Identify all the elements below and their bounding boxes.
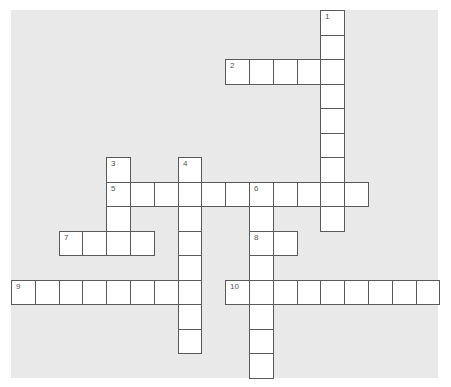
crossword-cell[interactable] — [106, 231, 131, 256]
crossword-cell[interactable] — [249, 304, 274, 330]
crossword-cell[interactable]: 2 — [225, 59, 250, 85]
crossword-cell[interactable] — [225, 182, 250, 207]
clue-number: 8 — [254, 234, 258, 242]
crossword-cell[interactable] — [273, 59, 298, 85]
crossword-cell[interactable] — [320, 133, 345, 158]
crossword-cell[interactable] — [82, 280, 107, 305]
crossword-cell[interactable] — [130, 231, 155, 256]
crossword-cell[interactable] — [320, 157, 345, 183]
crossword-cell[interactable] — [249, 59, 274, 85]
crossword-cell[interactable] — [320, 280, 345, 305]
crossword-cell[interactable]: 9 — [11, 280, 36, 305]
crossword-cell[interactable]: 5 — [106, 182, 131, 207]
crossword-cell[interactable] — [154, 182, 179, 207]
crossword-cell[interactable] — [249, 206, 274, 232]
crossword-cell[interactable] — [178, 255, 202, 281]
clue-number: 5 — [111, 185, 115, 193]
clue-number: 10 — [230, 283, 239, 291]
crossword-cell[interactable] — [106, 206, 131, 232]
crossword-cell[interactable] — [178, 206, 202, 232]
crossword-cell[interactable] — [344, 182, 369, 207]
crossword-cell[interactable] — [297, 182, 321, 207]
crossword-cell[interactable] — [249, 329, 274, 354]
clue-number: 4 — [183, 160, 187, 168]
crossword-cell[interactable] — [320, 206, 345, 232]
clue-number: 6 — [254, 185, 258, 193]
crossword-cell[interactable] — [249, 280, 274, 305]
crossword-cell[interactable] — [368, 280, 393, 305]
clue-number: 9 — [16, 283, 20, 291]
crossword-cell[interactable] — [320, 35, 345, 60]
clue-number: 2 — [230, 62, 234, 70]
crossword-cell[interactable] — [249, 353, 274, 379]
crossword-cell[interactable] — [35, 280, 60, 305]
crossword-cell[interactable] — [320, 108, 345, 134]
clue-number: 1 — [325, 13, 329, 21]
crossword-cell[interactable]: 4 — [178, 157, 202, 183]
crossword-cell[interactable]: 3 — [106, 157, 131, 183]
clue-number: 7 — [64, 234, 68, 242]
crossword-cell[interactable] — [178, 231, 202, 256]
crossword-cell[interactable] — [106, 280, 131, 305]
crossword-cell[interactable] — [154, 280, 179, 305]
crossword-cell[interactable]: 10 — [225, 280, 250, 305]
crossword-cell[interactable] — [273, 280, 298, 305]
crossword-cell[interactable] — [416, 280, 440, 305]
crossword-cell[interactable] — [344, 280, 369, 305]
crossword-cell[interactable] — [320, 182, 345, 207]
crossword-grid: 12354687910 — [0, 0, 451, 387]
crossword-cell[interactable] — [130, 280, 155, 305]
crossword-cell[interactable] — [59, 280, 83, 305]
crossword-cell[interactable] — [82, 231, 107, 256]
crossword-cell[interactable] — [249, 255, 274, 281]
clue-number: 3 — [111, 160, 115, 168]
crossword-cell[interactable] — [273, 231, 298, 256]
crossword-cell[interactable] — [392, 280, 417, 305]
crossword-cell[interactable] — [297, 280, 321, 305]
crossword-cell[interactable] — [273, 182, 298, 207]
crossword-cell[interactable] — [201, 182, 226, 207]
crossword-cell[interactable]: 1 — [320, 10, 345, 36]
crossword-cell[interactable] — [178, 182, 202, 207]
crossword-cell[interactable] — [178, 329, 202, 354]
crossword-cell[interactable] — [178, 280, 202, 305]
crossword-cell[interactable]: 7 — [59, 231, 83, 256]
crossword-cell[interactable]: 6 — [249, 182, 274, 207]
crossword-cell[interactable] — [320, 59, 345, 85]
crossword-cell[interactable] — [178, 304, 202, 330]
crossword-cell[interactable] — [320, 84, 345, 109]
crossword-cell[interactable]: 8 — [249, 231, 274, 256]
crossword-cell[interactable] — [130, 182, 155, 207]
crossword-cell[interactable] — [297, 59, 321, 85]
